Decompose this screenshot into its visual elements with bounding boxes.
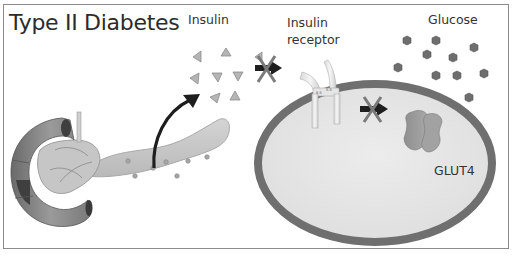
pancreas xyxy=(11,112,229,227)
svg-text:S-S: S-S xyxy=(326,88,332,92)
diagram-title: Type II Diabetes xyxy=(9,12,179,34)
insulin-receptor-label-line1: Insulin xyxy=(287,14,340,31)
glut4-label: GLUT4 xyxy=(434,165,475,178)
insulin-receptor-label-line2: receptor xyxy=(287,31,340,48)
insulin-label: Insulin xyxy=(188,14,229,27)
insulin-molecules xyxy=(190,48,262,103)
disulfide-bond-label: S-S xyxy=(316,91,322,95)
insulin-receptor-label: Insulin receptor xyxy=(287,14,340,48)
diagram-artwork: S-S S-S xyxy=(0,0,515,256)
blocked-arrow-insulin xyxy=(255,56,282,82)
glucose-label: Glucose xyxy=(428,14,478,27)
glut4-transporter xyxy=(404,110,442,152)
